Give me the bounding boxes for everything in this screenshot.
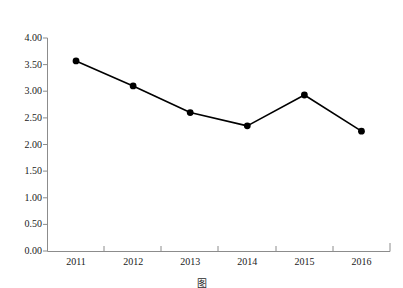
figure-container: 长轴/短轴 bbox=[0, 0, 403, 288]
y-tick-label-3-50: 3.50 bbox=[0, 60, 42, 70]
x-tick-label-2012: 2012 bbox=[108, 257, 158, 267]
x-tick-label-2011: 2011 bbox=[51, 257, 101, 267]
plot-background bbox=[0, 0, 403, 288]
y-tick-label-0-50: 0.50 bbox=[0, 219, 42, 229]
y-tick-label-0-00: 0.00 bbox=[0, 246, 42, 256]
data-point-2015 bbox=[301, 92, 308, 99]
x-tick-label-2015: 2015 bbox=[279, 257, 329, 267]
y-tick-label-1-00: 1.00 bbox=[0, 193, 42, 203]
data-point-2012 bbox=[130, 83, 137, 90]
x-tick-label-2013: 2013 bbox=[165, 257, 215, 267]
y-tick-label-1-50: 1.50 bbox=[0, 166, 42, 176]
data-point-2011 bbox=[73, 58, 80, 65]
y-tick-label-3-00: 3.00 bbox=[0, 86, 42, 96]
y-tick-label-4-00: 4.00 bbox=[0, 33, 42, 43]
data-point-2013 bbox=[187, 109, 194, 116]
data-point-2014 bbox=[244, 122, 251, 129]
x-tick-label-2014: 2014 bbox=[222, 257, 272, 267]
x-tick-label-2016: 2016 bbox=[336, 257, 386, 267]
y-tick-label-2-00: 2.00 bbox=[0, 140, 42, 150]
y-tick-label-2-50: 2.50 bbox=[0, 113, 42, 123]
data-point-2016 bbox=[358, 128, 365, 135]
figure-caption: 图 bbox=[0, 278, 403, 288]
line-chart-plot bbox=[0, 0, 403, 288]
